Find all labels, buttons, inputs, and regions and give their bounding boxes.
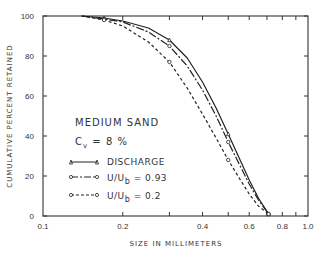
circle-marker-icon (168, 60, 171, 63)
x-tick-label: 0.8 (277, 222, 289, 231)
x-tick-label: 0.1 (37, 222, 49, 231)
circle-marker-icon (227, 158, 230, 161)
svg-text:DISCHARGE: DISCHARGE (107, 157, 165, 167)
x-tick-label: 0.6 (244, 222, 256, 231)
circle-marker-icon (95, 175, 98, 178)
y-tick-label: 20 (25, 172, 34, 181)
circle-marker-icon (69, 175, 72, 178)
x-tick-label: 1.0 (302, 222, 314, 231)
legend: DISCHARGE U/Ub = 0.93 U/Ub = 0.2 (69, 157, 167, 204)
x-tick-label: 0.2 (117, 222, 129, 231)
svg-text:U/Ub = 0.93: U/Ub = 0.93 (107, 173, 167, 186)
x-tick-label: 0.4 (197, 222, 209, 231)
plot-curves (82, 16, 271, 216)
y-tick-label: 80 (25, 52, 34, 61)
circle-marker-icon (95, 193, 98, 196)
y-tick-label: 0 (30, 212, 35, 221)
series-curve (82, 16, 269, 214)
grain-size-chart: 0.10.20.40.60.81.0020406080100 CUMULATIV… (0, 0, 325, 257)
y-tick-label: 60 (25, 92, 34, 101)
cv-annotation: Cv = 8 % (75, 136, 128, 150)
legend-item-u-ub-02: U/Ub = 0.2 (69, 191, 160, 204)
legend-item-discharge: DISCHARGE (70, 157, 165, 167)
y-tick-label: 100 (21, 12, 35, 21)
circle-marker-icon (227, 140, 230, 143)
circle-marker-icon (69, 193, 72, 196)
circle-marker-icon (168, 44, 171, 47)
circle-marker-icon (267, 212, 270, 215)
triangle-marker-icon (168, 38, 171, 42)
x-axis-label: SIZE IN MILLIMETERS (130, 240, 223, 248)
y-axis-label: CUMULATIVE PERCENT RETAINED (6, 44, 14, 187)
material-annotation: MEDIUM SAND (75, 117, 159, 128)
y-tick-label: 40 (25, 132, 34, 141)
circle-marker-icon (102, 18, 105, 21)
legend-item-u-ub-093: U/Ub = 0.93 (69, 173, 167, 186)
svg-text:U/Ub = 0.2: U/Ub = 0.2 (107, 191, 161, 204)
